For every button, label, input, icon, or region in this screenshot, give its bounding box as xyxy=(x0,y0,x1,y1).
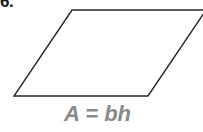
area-formula-label: A = bh xyxy=(0,101,203,127)
parallelogram-shape xyxy=(14,10,203,96)
geometry-figure-card: 6. A = bh xyxy=(0,0,203,132)
